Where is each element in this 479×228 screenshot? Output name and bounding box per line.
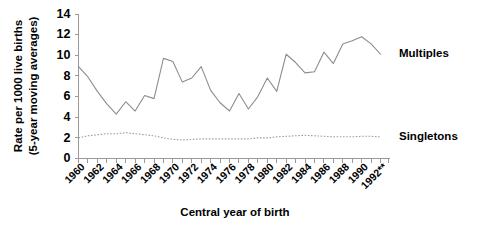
y-axis: 02468101214: [57, 7, 79, 166]
x-axis-title: Central year of birth: [180, 206, 289, 218]
x-tick-label: 1976: [213, 160, 238, 185]
line-chart: 02468101214 1960196219641966196819701972…: [0, 0, 479, 228]
y-tick-label: 10: [57, 48, 71, 62]
plot-series: [79, 37, 381, 140]
x-tick-label: 1962: [81, 160, 106, 185]
x-tick-label: 1972: [175, 160, 200, 185]
series-line-singletons: [79, 133, 381, 140]
y-tick-label: 6: [64, 89, 71, 103]
y-tick-label: 14: [57, 7, 71, 21]
x-tick-label: 1970: [156, 160, 181, 185]
y-axis-title-line2: (5-year moving averages): [27, 16, 39, 155]
x-tick-label: 1966: [119, 160, 144, 185]
y-tick-label: 0: [64, 151, 71, 165]
x-tick-label: 1982: [270, 160, 295, 185]
x-tick-label: 1980: [251, 160, 276, 185]
x-tick-label: 1986: [307, 160, 332, 185]
chart-page: 02468101214 1960196219641966196819701972…: [0, 0, 479, 228]
legend-label-multiples: Multiples: [399, 47, 449, 59]
x-tick-label: 1988: [326, 160, 351, 185]
x-tick-label: 1968: [137, 160, 162, 185]
y-axis-title: Rate per 1000 live births (5-year moving…: [12, 16, 39, 155]
series-line-multiples: [79, 37, 381, 114]
x-axis: 1960196219641966196819701972197419761978…: [62, 159, 390, 192]
y-tick-label: 12: [57, 27, 71, 41]
x-tick-label: 1978: [232, 160, 257, 185]
legend: Multiples Singletons: [399, 47, 458, 142]
x-tick-labels: 1960196219641966196819701972197419761978…: [62, 160, 390, 191]
x-tick-label: 1964: [100, 160, 125, 185]
y-tick-label: 4: [64, 110, 71, 124]
y-tick-label: 8: [64, 69, 71, 83]
x-tick-label: 1984: [288, 160, 313, 185]
legend-label-singletons: Singletons: [399, 130, 458, 142]
y-tick-marks: [75, 14, 79, 159]
y-tick-label: 2: [64, 131, 71, 145]
y-axis-title-line1: Rate per 1000 live births: [12, 20, 24, 152]
x-tick-label: 1974: [194, 160, 219, 185]
y-tick-labels: 02468101214: [57, 7, 71, 166]
